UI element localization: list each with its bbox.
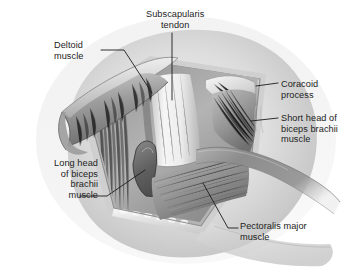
label-short-head-biceps: Short head of biceps brachii muscle: [281, 113, 338, 145]
label-pectoralis-major: Pectoralis major muscle: [240, 221, 307, 242]
label-long-head-biceps: Long head of biceps brachii muscle: [18, 158, 98, 200]
label-coracoid-process: Coracoid process: [281, 79, 318, 100]
label-deltoid-muscle: Deltoid muscle: [54, 40, 83, 61]
label-subscapularis-tendon: Subscapularis tendon: [146, 9, 204, 30]
anatomy-figure: Subscapularis tendon Deltoid muscle Cora…: [0, 0, 360, 277]
